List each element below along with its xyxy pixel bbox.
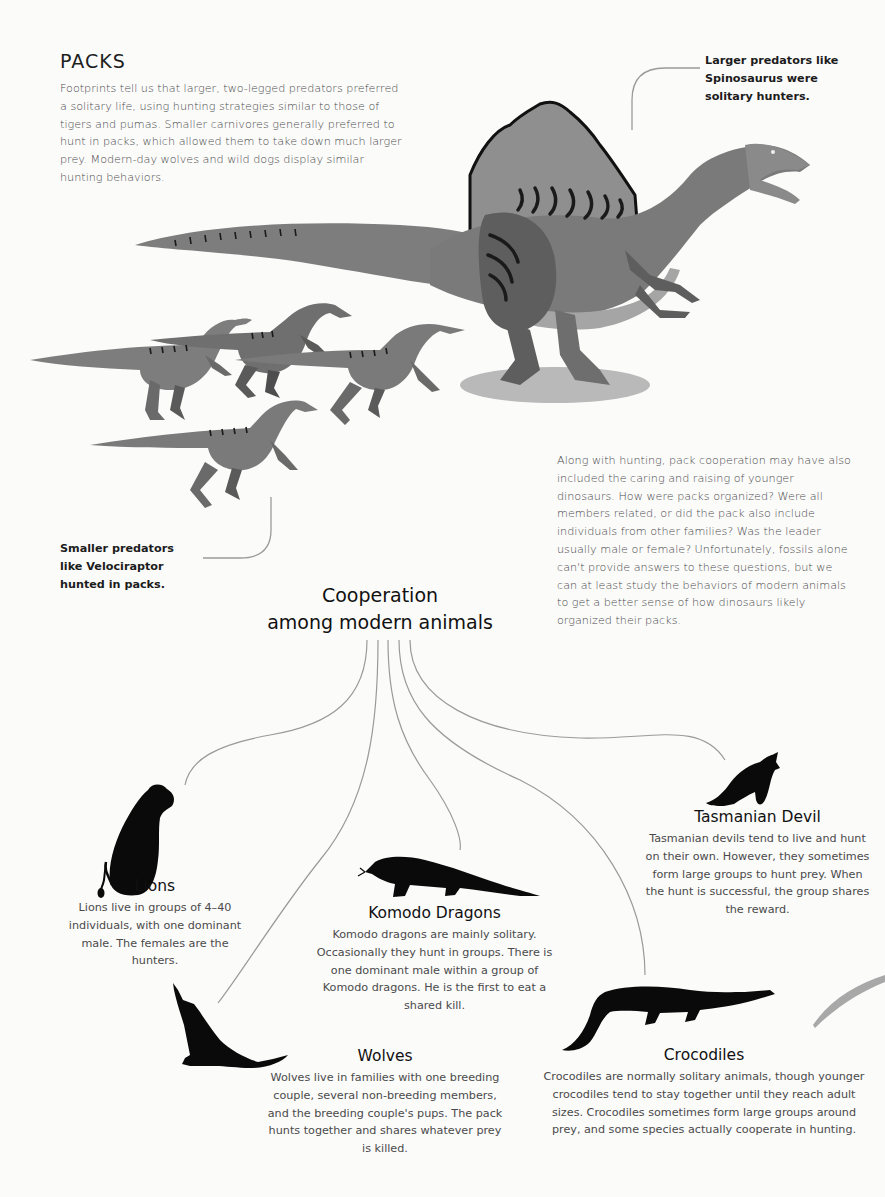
animal-description: Komodo dragons are mainly solitary. Occa… (312, 926, 557, 1015)
callout-velociraptor: Smaller predators like Velociraptor hunt… (60, 540, 175, 593)
animal-card-tasmanian-devil: Tasmanian Devil Tasmanian devils tend to… (645, 808, 870, 919)
animal-description: Tasmanian devils tend to live and hunt o… (645, 830, 870, 919)
animal-name: Crocodiles (523, 1046, 885, 1064)
section-title: PACKS (60, 50, 126, 72)
tasmanian-devil-silhouette-icon (706, 752, 780, 806)
animal-card-crocodiles: Crocodiles Crocodiles are normally solit… (523, 1046, 885, 1139)
velociraptor-callout-line (203, 497, 271, 558)
animal-name: Tasmanian Devil (645, 808, 870, 826)
animal-name: Komodo Dragons (312, 904, 557, 922)
velociraptor-pack-illustration (30, 303, 465, 508)
animal-description: Wolves live in families with one breedin… (265, 1069, 505, 1158)
pack-cooperation-paragraph: Along with hunting, pack cooperation may… (557, 452, 852, 630)
page-edge-shadow (813, 975, 885, 1028)
animal-card-komodo-dragons: Komodo Dragons Komodo dragons are mainly… (312, 904, 557, 1015)
animal-name: Lions (45, 877, 265, 895)
animal-description: Lions live in groups of 4–40 individuals… (45, 899, 265, 970)
komodo-dragon-silhouette-icon (358, 857, 540, 897)
animal-card-wolves: Wolves Wolves live in families with one … (265, 1047, 505, 1158)
spinosaurus-callout-line (632, 68, 700, 130)
animal-name: Wolves (265, 1047, 505, 1065)
cooperation-heading-line1: Cooperation (262, 582, 498, 609)
animal-card-lions: Lions Lions live in groups of 4–40 indiv… (45, 877, 265, 970)
cooperation-heading-line2: among modern animals (262, 609, 498, 636)
section-intro: Footprints tell us that larger, two-legg… (60, 80, 405, 187)
cooperation-heading: Cooperation among modern animals (262, 582, 498, 636)
animal-description: Crocodiles are normally solitary animals… (523, 1068, 885, 1139)
callout-spinosaurus: Larger predators like Spinosaurus were s… (705, 52, 865, 105)
crocodile-silhouette-icon (562, 986, 775, 1050)
